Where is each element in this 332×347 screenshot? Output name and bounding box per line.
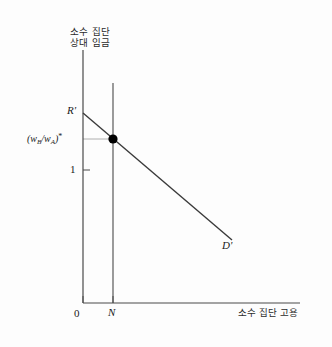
economics-demand-supply-figure: 소수 집단 상대 임금 소수 집단 고용 R' D' (wB/wA)* 1 0 … <box>0 0 332 347</box>
intercept-label-r-prime: R' <box>67 104 76 117</box>
wage-label-star: * <box>58 132 62 141</box>
y-axis-title-line-2: 상대 임금 <box>44 37 136 48</box>
curve-label-d-prime: D' <box>222 239 232 252</box>
y-axis-title-line-1: 소수 집단 <box>70 26 109 37</box>
x-axis-title: 소수 집단 고용 <box>238 307 298 318</box>
employment-tick-label-n: N <box>108 306 115 319</box>
y-axis-title: 소수 집단 상대 임금 <box>44 26 136 48</box>
demand-curve-line <box>83 113 232 240</box>
plot-canvas <box>0 0 332 347</box>
unity-tick-label: 1 <box>70 163 76 176</box>
wage-label-slash: /w <box>41 133 50 144</box>
origin-label: 0 <box>74 307 80 320</box>
wage-label-prefix: (w <box>27 133 37 144</box>
equilibrium-wage-label: (wB/wA)* <box>27 132 62 146</box>
equilibrium-point-marker <box>108 134 117 143</box>
